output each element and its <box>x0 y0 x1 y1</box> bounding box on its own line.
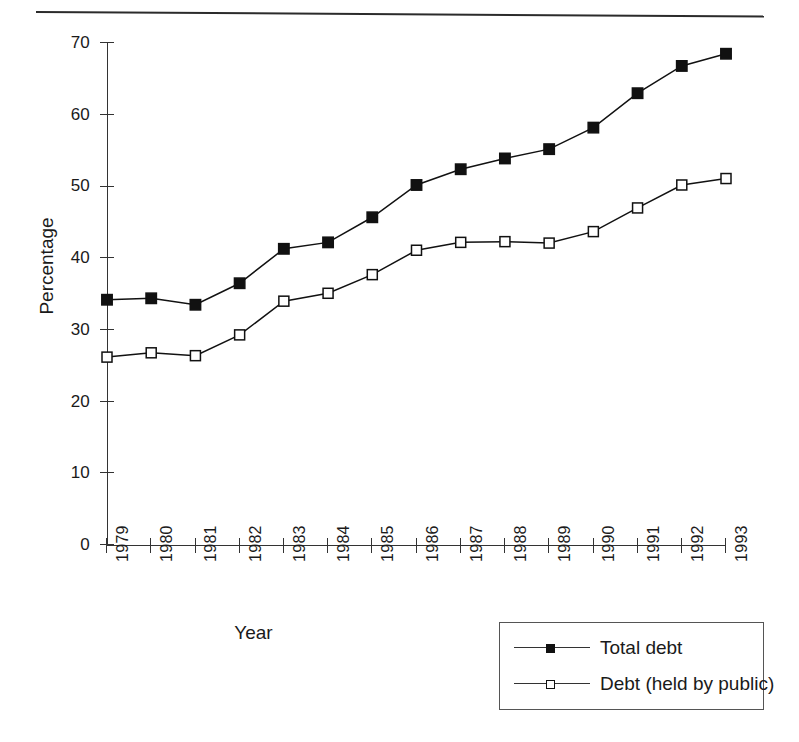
x-axis-tick <box>681 538 682 553</box>
x-axis-tick <box>637 538 638 553</box>
y-axis-tick-label: 0 <box>44 536 90 553</box>
x-axis-tick <box>283 538 284 553</box>
x-axis-tick <box>725 538 726 553</box>
legend: Total debt Debt (held by public) <box>499 622 764 710</box>
x-axis-tick <box>106 538 107 553</box>
data-point-marker <box>544 144 554 154</box>
data-point-marker <box>500 153 510 163</box>
data-point-marker <box>588 122 598 132</box>
data-point-marker <box>588 227 598 237</box>
x-axis-tick-label: 1987 <box>468 525 486 562</box>
x-axis-title-label: Year <box>234 622 272 644</box>
x-axis-tick-label: 1982 <box>247 525 265 562</box>
y-axis-tick <box>100 114 114 115</box>
data-point-marker <box>411 180 421 190</box>
y-axis-tick <box>100 42 114 43</box>
y-axis-tick-label: 30 <box>44 321 90 338</box>
data-point-marker <box>677 61 687 71</box>
series-line-1 <box>107 54 726 305</box>
data-point-marker <box>412 245 422 255</box>
y-axis-tick <box>100 186 114 187</box>
legend-key-filled-square-icon <box>514 641 590 655</box>
data-point-marker <box>190 351 200 361</box>
x-axis-tick <box>371 538 372 553</box>
y-axis-tick <box>100 257 114 258</box>
horizontal-rule <box>36 11 764 17</box>
data-point-marker <box>367 212 377 222</box>
data-point-marker <box>323 288 333 298</box>
x-axis-tick-label: 1990 <box>600 525 618 562</box>
x-axis-tick <box>416 538 417 553</box>
x-axis-tick <box>504 538 505 553</box>
x-axis-tick <box>239 538 240 553</box>
data-point-marker <box>146 293 156 303</box>
y-axis-line <box>107 43 108 545</box>
data-point-marker <box>456 164 466 174</box>
data-point-marker <box>500 237 510 247</box>
x-axis-tick <box>460 538 461 553</box>
y-axis-tick-label: 50 <box>44 177 90 194</box>
data-point-marker <box>721 174 731 184</box>
x-axis-tick-label: 1986 <box>424 525 442 562</box>
data-point-marker <box>456 237 466 247</box>
x-axis-tick-label: 1983 <box>291 525 309 562</box>
x-axis-tick-label: 1979 <box>114 525 132 562</box>
y-axis-tick-label: 20 <box>44 393 90 410</box>
data-point-marker <box>190 300 200 310</box>
y-axis-tick-label: 40 <box>44 249 90 266</box>
legend-label-total-debt: Total debt <box>600 637 682 659</box>
legend-key-open-square-icon <box>514 677 590 691</box>
data-point-marker <box>633 203 643 213</box>
data-point-marker <box>235 330 245 340</box>
x-axis-tick-label: 1992 <box>689 525 707 562</box>
y-axis-tick <box>100 329 114 330</box>
data-point-marker <box>279 244 289 254</box>
y-axis-tick <box>100 401 114 402</box>
x-axis-tick-label: 1980 <box>158 525 176 562</box>
data-point-marker <box>146 348 156 358</box>
x-axis-tick-label: 1984 <box>335 525 353 562</box>
chart-page: Percentage 010203040506070 1979198019811… <box>0 0 799 742</box>
data-point-marker <box>367 270 377 280</box>
x-axis-tick-label: 1985 <box>379 525 397 562</box>
data-point-marker <box>323 237 333 247</box>
y-axis-tick-label: 60 <box>44 106 90 123</box>
x-axis-tick-label: 1988 <box>512 525 530 562</box>
data-point-marker <box>234 278 244 288</box>
data-point-marker <box>279 296 289 306</box>
x-axis-tick-label: 1991 <box>645 525 663 562</box>
series-line-2 <box>107 179 726 358</box>
y-axis-tick <box>100 472 114 473</box>
legend-label-debt-held-by-public: Debt (held by public) <box>600 673 774 695</box>
data-point-marker <box>632 88 642 98</box>
data-point-marker <box>721 49 731 59</box>
y-axis-tick-label: 70 <box>44 34 90 51</box>
x-axis-tick-label: 1993 <box>733 525 751 562</box>
legend-item-total-debt: Total debt <box>514 637 763 659</box>
x-axis-tick <box>150 538 151 553</box>
x-axis-tick <box>195 538 196 553</box>
x-axis-tick-label: 1981 <box>202 525 220 562</box>
x-axis-tick-label: 1989 <box>556 525 574 562</box>
x-axis-tick <box>548 538 549 553</box>
x-axis-tick <box>327 538 328 553</box>
legend-item-debt-held-by-public: Debt (held by public) <box>514 673 763 695</box>
y-axis-tick-label: 10 <box>44 464 90 481</box>
data-point-marker <box>544 238 554 248</box>
data-point-marker <box>677 180 687 190</box>
x-axis-tick <box>593 538 594 553</box>
